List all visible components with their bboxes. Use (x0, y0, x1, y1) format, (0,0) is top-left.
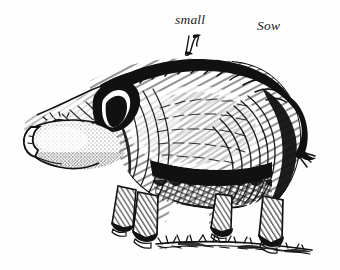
annotation-small: small (175, 12, 205, 28)
stray-ink-mark (185, 34, 201, 55)
annotation-sow: Sow (257, 18, 280, 34)
pig-leg-front-far (111, 186, 136, 236)
illustration-page: small Sow domestic pig (sow) standing in… (0, 0, 340, 270)
pig-illustration (0, 0, 340, 270)
